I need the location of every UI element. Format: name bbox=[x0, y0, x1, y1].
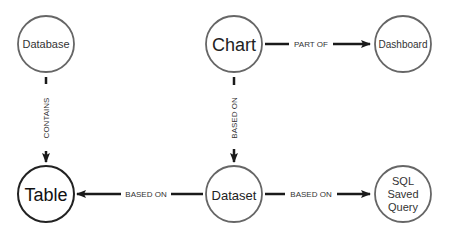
node-label-chart: Chart bbox=[212, 35, 256, 55]
edge-label-contains: CONTAINS bbox=[42, 98, 51, 139]
edge-label-based-on-vertical: BASED ON bbox=[230, 97, 239, 139]
node-label-sql-line1: SQL bbox=[392, 175, 414, 187]
edge-label-part-of: PART OF bbox=[294, 40, 328, 49]
edge-chart-based-on-dataset: BASED ON bbox=[230, 77, 239, 162]
edge-database-contains-table: CONTAINS bbox=[42, 77, 51, 162]
node-label-sql-line2: Saved bbox=[387, 188, 418, 200]
node-label-dataset: Dataset bbox=[212, 188, 257, 203]
node-label-dashboard: Dashboard bbox=[379, 39, 428, 50]
node-chart[interactable]: Chart bbox=[206, 16, 262, 72]
node-table[interactable]: Table bbox=[18, 166, 74, 222]
edge-dataset-based-on-table: BASED ON bbox=[77, 190, 203, 199]
edge-label-based-on-table: BASED ON bbox=[125, 190, 167, 199]
node-label-sql-line3: Query bbox=[388, 201, 418, 213]
node-label-table: Table bbox=[24, 185, 67, 205]
node-sql-saved-query[interactable]: SQL Saved Query bbox=[375, 166, 431, 222]
node-database[interactable]: Database bbox=[18, 16, 74, 72]
edge-dataset-based-on-sql: BASED ON bbox=[265, 190, 370, 199]
edge-label-based-on-sql: BASED ON bbox=[290, 190, 332, 199]
node-label-database: Database bbox=[22, 38, 69, 50]
node-dashboard[interactable]: Dashboard bbox=[375, 16, 431, 72]
relationship-diagram: CONTAINS BASED ON PART OF BASED ON BASED… bbox=[0, 0, 449, 239]
node-dataset[interactable]: Dataset bbox=[206, 166, 262, 222]
edge-chart-part-of-dashboard: PART OF bbox=[265, 40, 370, 49]
